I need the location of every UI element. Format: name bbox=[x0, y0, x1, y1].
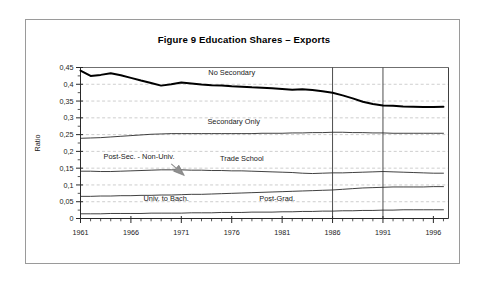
x-tick-label: 1996 bbox=[425, 228, 441, 237]
figure-container: Figure 9 Education Shares – Exports 1961… bbox=[0, 0, 488, 283]
series-annotation: Trade School bbox=[220, 154, 264, 163]
x-tick-label: 1961 bbox=[73, 228, 89, 237]
y-axis-title: Ratio bbox=[33, 135, 42, 152]
x-tick-label: 1986 bbox=[325, 228, 341, 237]
x-tick-label: 1981 bbox=[274, 228, 290, 237]
line-chart: 19611966197119761981198619911996 00,050,… bbox=[0, 0, 488, 283]
y-tick-label: 0,25 bbox=[60, 130, 74, 139]
y-tick-label: 0 bbox=[70, 214, 74, 223]
series-line bbox=[81, 71, 444, 108]
x-tick-label: 1971 bbox=[173, 228, 189, 237]
y-tick-label: 0,35 bbox=[60, 97, 74, 106]
x-tick-label: 1966 bbox=[123, 228, 139, 237]
series-line bbox=[81, 210, 444, 214]
data-series bbox=[81, 71, 444, 214]
y-axis-tick-labels: 00,050,10,150,20,250,30,350,40,45 bbox=[60, 63, 74, 223]
series-annotation: No Secondary bbox=[208, 68, 255, 77]
y-tick-label: 0,45 bbox=[60, 63, 74, 72]
series-annotation: Post-Grad. bbox=[259, 194, 295, 203]
y-tick-label: 0,4 bbox=[64, 80, 74, 89]
series-line bbox=[81, 170, 444, 174]
y-axis-title-text: Ratio bbox=[33, 135, 42, 152]
y-tick-label: 0,1 bbox=[64, 181, 74, 190]
x-axis-tick-labels: 19611966197119761981198619911996 bbox=[73, 228, 442, 237]
x-tick-label: 1991 bbox=[375, 228, 391, 237]
vertical-reference-lines bbox=[333, 68, 383, 219]
y-tick-label: 0,2 bbox=[64, 147, 74, 156]
y-tick-label: 0,3 bbox=[64, 113, 74, 122]
series-annotation: Post-Sec. - Non-Univ. bbox=[104, 152, 175, 161]
series-annotation: Secondary Only bbox=[207, 117, 260, 126]
y-tick-label: 0,05 bbox=[60, 197, 74, 206]
x-tick-label: 1976 bbox=[224, 228, 240, 237]
series-line bbox=[81, 132, 444, 138]
y-tick-label: 0,15 bbox=[60, 164, 74, 173]
series-annotation: Univ. to Bach. bbox=[143, 194, 188, 203]
